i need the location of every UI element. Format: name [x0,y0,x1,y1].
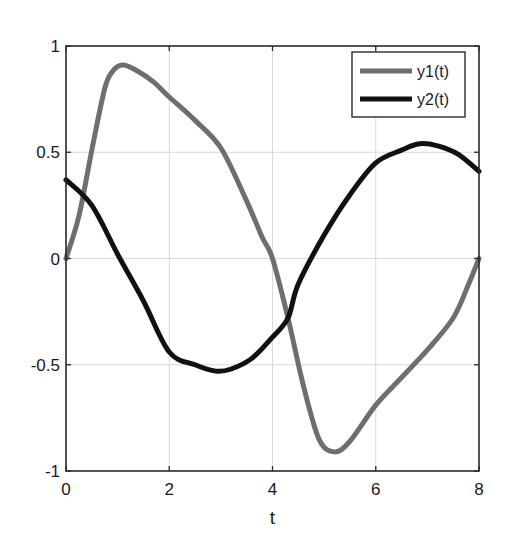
y-tick-label: 0 [51,250,60,269]
legend[interactable]: y1(t)y2(t) [352,52,465,117]
x-tick-labels: 02468 [61,480,483,499]
y-tick-label: -1 [45,462,60,481]
y-tick-label: 1 [51,37,60,56]
legend-label: y1(t) [417,63,449,80]
y-tick-labels: -1-0.500.51 [31,37,60,481]
x-tick-label: 8 [474,480,483,499]
x-tick-label: 4 [268,480,277,499]
y-tick-label: 0.5 [36,143,60,162]
legend-label: y2(t) [417,91,449,108]
x-tick-label: 2 [165,480,174,499]
line-chart: 02468 -1-0.500.51 t y1(t)y2(t) [0,0,506,549]
y-tick-label: -0.5 [31,356,60,375]
x-tick-label: 0 [61,480,70,499]
x-axis-title: t [270,507,276,528]
x-tick-label: 6 [371,480,380,499]
